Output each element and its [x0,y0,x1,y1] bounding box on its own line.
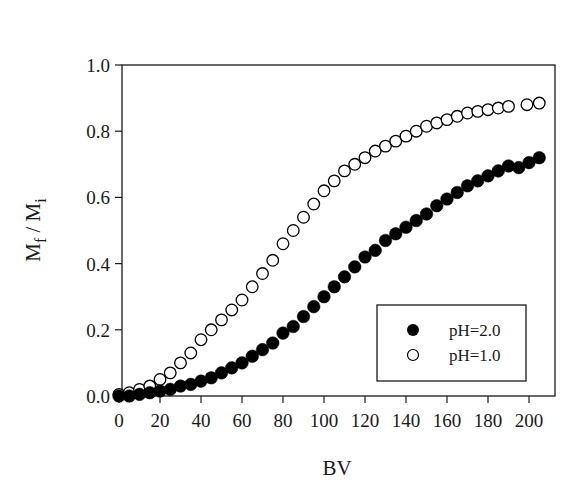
x-tick-label: 40 [192,410,211,431]
data-point-open [349,159,361,171]
data-point-open [359,152,371,164]
y-label-main2: M [21,202,45,221]
y-tick-label: 0.2 [86,320,110,341]
x-tick-label: 120 [351,410,380,431]
data-point-open [328,175,340,187]
y-label-main1: M [21,243,45,262]
data-point-filled [348,261,361,274]
x-tick-label: 60 [233,410,252,431]
filled-circle-icon [407,324,419,336]
data-point-filled [307,300,320,313]
x-tick-label: 200 [515,410,544,431]
scatter-chart: 0.00.20.40.60.81.0 020406080100120140160… [0,0,563,488]
data-point-open [257,268,269,280]
y-tick-label: 0.0 [86,386,110,407]
x-tick-label: 100 [310,410,339,431]
x-tick-label: 180 [474,410,503,431]
data-point-open [236,294,248,306]
data-point-open [195,334,207,346]
data-point-open [339,165,351,177]
y-tick-label: 1.0 [86,55,110,76]
y-tick-label: 0.6 [86,187,110,208]
open-circle-icon [408,350,419,361]
data-point-open [226,304,238,316]
y-label-sub2: i [32,198,49,203]
x-tick-label: 140 [392,410,421,431]
data-point-open [185,347,197,359]
y-axis-label: Mf / Mi [21,198,49,262]
data-point-open [175,357,187,369]
x-tick-label: 80 [274,410,293,431]
y-tick-label: 0.8 [86,121,110,142]
y-axis-ticks: 0.00.20.40.60.81.0 [86,55,122,407]
data-point-filled [297,310,310,323]
data-point-filled [266,337,279,350]
data-point-open [287,225,299,237]
legend-label-ph-2: pH=2.0 [449,321,501,340]
legend-box [377,305,526,381]
data-point-filled [338,271,351,284]
data-point-filled [318,290,331,303]
data-point-open [246,281,258,293]
data-point-open [298,211,310,223]
data-point-filled [328,280,341,293]
data-point-open [205,324,217,336]
svg-text:Mf / Mi: Mf / Mi [21,198,49,262]
x-tick-label: 160 [433,410,462,431]
y-label-sep: / [21,221,45,237]
x-tick-label: 20 [151,410,170,431]
data-point-open [521,99,533,111]
data-point-open [503,101,515,113]
data-point-filled [287,320,300,333]
data-point-open [318,185,330,197]
data-point-filled [420,208,433,221]
x-axis-ticks: 020406080100120140160180200 [114,396,543,431]
data-point-filled [533,151,546,164]
data-point-open [277,238,289,250]
data-point-open [267,254,279,266]
data-point-open [164,367,176,379]
legend: pH=2.0 pH=1.0 [377,305,526,381]
x-axis-label: BV [322,456,351,480]
data-point-open [216,314,228,326]
y-tick-label: 0.4 [86,254,110,275]
data-point-open [154,374,166,386]
data-point-open [308,198,320,210]
data-point-filled [369,244,382,257]
legend-label-ph-1: pH=1.0 [449,346,501,365]
x-tick-label: 0 [114,410,124,431]
data-point-open [533,97,545,109]
